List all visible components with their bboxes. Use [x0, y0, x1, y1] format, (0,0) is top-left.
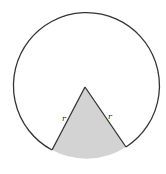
label-right-radius: r	[108, 112, 113, 121]
circle-sector-diagram: r r	[0, 0, 166, 174]
